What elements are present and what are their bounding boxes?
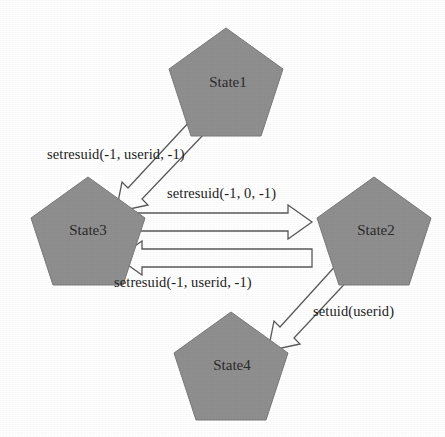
node-state1[interactable]: State1 (169, 28, 283, 136)
state1-label: State1 (209, 74, 247, 90)
state3-label: State3 (69, 222, 107, 238)
edge-state3-state2-arrow (133, 205, 312, 239)
edge-label-state1-state3: setresuid(-1, userid, -1) (47, 146, 185, 163)
node-state4[interactable]: State4 (174, 312, 288, 420)
node-state2[interactable]: State2 (317, 177, 431, 285)
edge-state2-state3-arrow (118, 241, 312, 275)
edge-label-state2-state4: setuid(userid) (313, 303, 394, 320)
state2-label: State2 (357, 222, 395, 238)
edge-label-state2-state3: setresuid(-1, userid, -1) (114, 274, 252, 291)
state4-label: State4 (213, 357, 251, 373)
state-diagram-svg: State1 State3 State2 State4 (0, 0, 445, 437)
state-diagram-canvas: State1 State3 State2 State4 setresuid(-1… (0, 0, 445, 437)
edge-label-state3-state2: setresuid(-1, 0, -1) (167, 185, 276, 202)
